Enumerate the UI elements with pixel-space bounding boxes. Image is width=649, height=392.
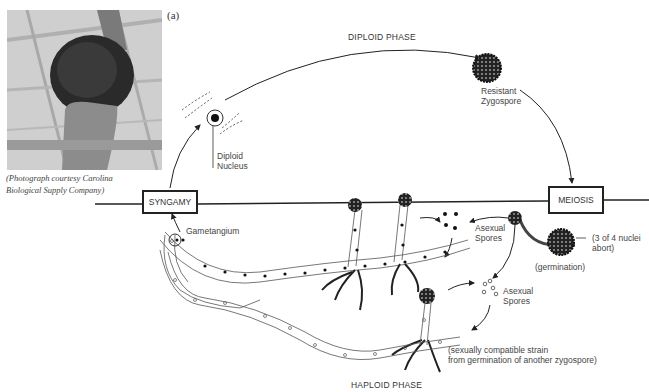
gametangium-label: Gametangium [186, 226, 239, 236]
asexual-spores-label-bottom: Asexual Spores [503, 286, 533, 306]
asexual-spores-dark-icon [443, 212, 458, 230]
zygospore-label: Resistant Zygospore [481, 86, 521, 106]
sporangium-icon [419, 288, 435, 304]
sporangium-icon [348, 198, 362, 212]
rhizoids [322, 264, 440, 372]
haploid-phase-label: HAPLOID PHASE [351, 380, 422, 390]
sporangium-icon [398, 193, 412, 207]
germination-label: (germination) [535, 262, 585, 272]
nuclei-abort-label: (3 of 4 nuclei abort) [592, 233, 641, 253]
syngamy-box: SYNGAMY [142, 190, 198, 214]
asexual-spores-light-icon [482, 279, 498, 296]
diploid-phase-label: DIPLOID PHASE [348, 32, 416, 42]
compatible-strain-label: (sexually compatible strain from germina… [448, 345, 597, 365]
asexual-spores-label-top: Asexual Spores [475, 223, 505, 243]
diploid-nucleus-label: Diploid Nucleus [217, 151, 248, 171]
meiosis-box: MEIOSIS [548, 186, 604, 214]
resistant-zygospore-icon [473, 54, 501, 82]
germinating-zygospore-icon [508, 211, 586, 255]
